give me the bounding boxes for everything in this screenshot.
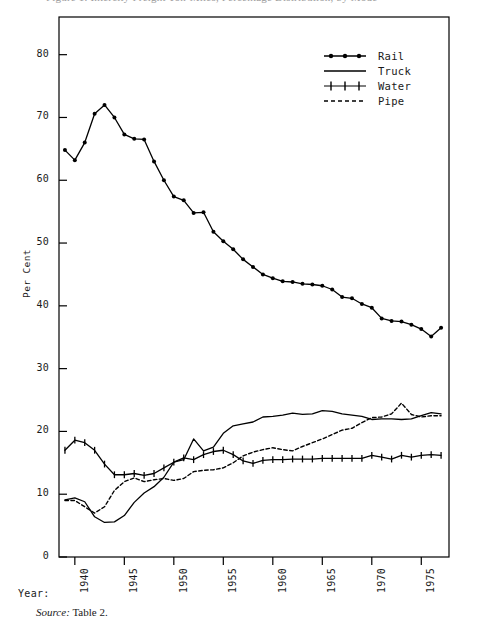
- x-tick-label: 1950: [178, 568, 189, 593]
- series-layer: [63, 103, 443, 523]
- x-tick-label: 1945: [128, 568, 139, 593]
- source-label: Source:: [36, 606, 70, 618]
- x-tick-label: 1940: [79, 568, 90, 593]
- legend-label-truck: Truck: [378, 65, 411, 77]
- series-rail: [63, 103, 443, 339]
- figure-container: Per Cent 01020304050607080 1940194519501…: [0, 0, 480, 623]
- legend-swatch-water-icon: [322, 79, 368, 93]
- x-tick-label: 1955: [227, 568, 238, 593]
- axes-ticks: [59, 55, 421, 565]
- source-value: Table 2.: [72, 606, 107, 618]
- y-tick-label: 60: [23, 173, 49, 184]
- y-tick-label: 30: [23, 362, 49, 373]
- x-tick-label: 1965: [326, 568, 337, 593]
- x-tick-label: 1960: [277, 568, 288, 593]
- y-tick-label: 50: [23, 236, 49, 247]
- legend-item-water: Water: [322, 78, 411, 93]
- legend-label-pipe: Pipe: [378, 95, 405, 107]
- legend-item-pipe: Pipe: [322, 93, 411, 108]
- y-tick-label: 0: [23, 550, 49, 561]
- x-tick-label: 1975: [425, 568, 436, 593]
- legend-label-rail: Rail: [378, 50, 405, 62]
- y-tick-label: 40: [23, 299, 49, 310]
- legend-swatch-pipe-icon: [322, 94, 368, 108]
- y-tick-label: 80: [23, 48, 49, 59]
- legend-swatch-rail-icon: [322, 49, 368, 63]
- source-note: Source: Table 2.: [36, 606, 108, 618]
- series-water: [65, 437, 441, 479]
- legend-item-rail: Rail: [322, 48, 411, 63]
- y-tick-label: 20: [23, 424, 49, 435]
- y-tick-label: 70: [23, 110, 49, 121]
- y-tick-label: 10: [23, 487, 49, 498]
- legend-swatch-truck-icon: [322, 64, 368, 78]
- chart-legend: Rail Truck Water Pipe: [322, 48, 411, 108]
- x-tick-label: 1970: [376, 568, 387, 593]
- legend-label-water: Water: [378, 80, 411, 92]
- year-axis-caption: Year:: [18, 588, 50, 599]
- legend-item-truck: Truck: [322, 63, 411, 78]
